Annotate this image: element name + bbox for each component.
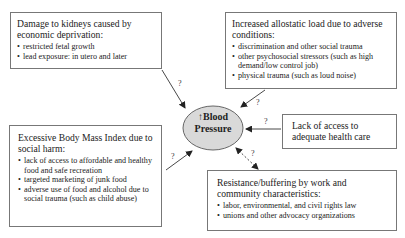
- arrow-resistance-label: ?: [251, 149, 255, 158]
- arrow-bmi-label: ?: [171, 152, 175, 161]
- list-item: restricted fetal growth: [17, 42, 155, 52]
- box-resistance-buffering: Resistance/buffering by work and communi…: [207, 170, 397, 231]
- center-line2: Pressure: [183, 123, 243, 135]
- box-body-mass-index: Excessive Body Mass Index due to social …: [9, 125, 162, 227]
- blood-pressure-label: ↑Blood Pressure: [183, 111, 243, 135]
- arrow-allostatic: [241, 90, 265, 107]
- arrow-bmi: [166, 151, 192, 170]
- arrow-kidneys-label: ?: [178, 79, 182, 88]
- list-item: other psychosocial stressors (such as hi…: [232, 52, 390, 71]
- arrow-healthcare-label: ?: [264, 117, 268, 126]
- arrow-allostatic-label: ?: [256, 98, 260, 107]
- list-item: labor, environmental, and civil rights l…: [217, 201, 387, 211]
- list-item: unions and other advocacy organizations: [217, 211, 387, 221]
- bullet-list: discrimination and other social trauma o…: [232, 42, 390, 80]
- box-title: Damage to kidneys caused by economic dep…: [17, 18, 155, 40]
- list-item: lack of access to affordable and healthy…: [18, 156, 153, 175]
- box-title: Excessive Body Mass Index due to social …: [18, 132, 153, 154]
- list-item: adverse use of food and alcohol due to s…: [18, 185, 153, 204]
- arrow-kidneys: [162, 70, 185, 108]
- box-title: Lack of access to adequate health care: [292, 120, 387, 142]
- list-item: discrimination and other social trauma: [232, 42, 390, 52]
- list-item: physical trauma (such as loud noise): [232, 71, 390, 81]
- arrow-resistance-bidirectional: [236, 148, 258, 169]
- box-allostatic-load: Increased allostatic load due to adverse…: [225, 12, 397, 89]
- box-title: Resistance/buffering by work and communi…: [217, 177, 387, 199]
- bullet-list: labor, environmental, and civil rights l…: [217, 201, 387, 220]
- box-title: Increased allostatic load due to adverse…: [232, 18, 390, 40]
- box-kidney-damage: Damage to kidneys caused by economic dep…: [10, 12, 162, 69]
- list-item: targeted marketing of junk food: [18, 175, 153, 185]
- bullet-list: restricted fetal growth lead exposure: i…: [17, 42, 155, 61]
- bullet-list: lack of access to affordable and healthy…: [18, 156, 153, 204]
- center-line1: Blood: [203, 111, 228, 122]
- list-item: lead exposure: in utero and later: [17, 52, 155, 62]
- box-health-care-access: Lack of access to adequate health care: [282, 114, 397, 149]
